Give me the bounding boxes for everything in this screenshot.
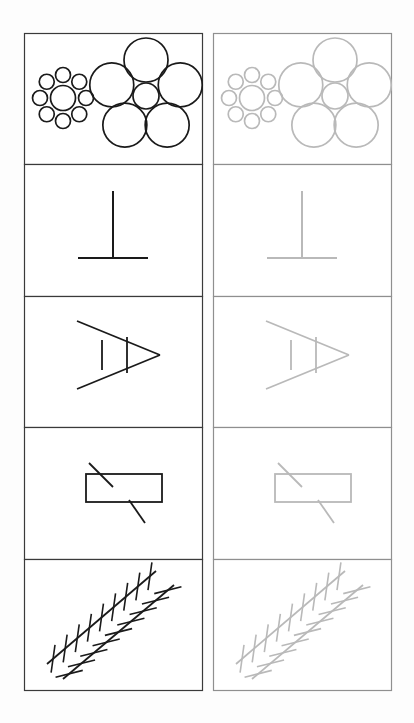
illusion-figure-sheet [0, 0, 414, 723]
panel-right-column-row3 [214, 297, 392, 428]
panels-layer [25, 34, 392, 691]
illusion-sheet-stage [0, 0, 414, 723]
panel-right-column-row4 [214, 428, 392, 560]
panel-left-column-row4 [25, 428, 203, 560]
panel-left-column-row3 [25, 297, 203, 428]
